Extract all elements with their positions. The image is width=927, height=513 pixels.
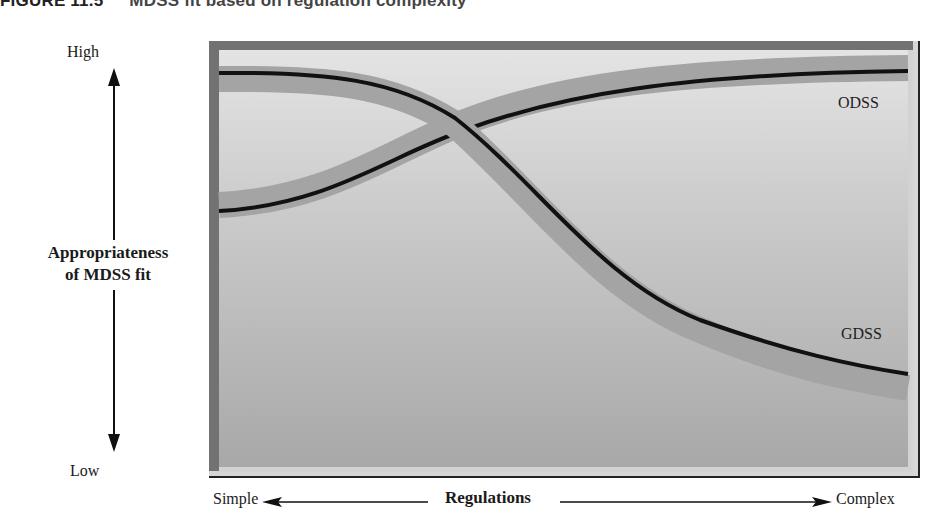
arrow-up-icon xyxy=(108,68,120,86)
series-label-odss: ODSS xyxy=(838,94,879,112)
arrow-down-icon xyxy=(108,434,120,452)
y-axis-low-label: Low xyxy=(70,462,99,480)
x-axis-right-label: Complex xyxy=(836,490,895,508)
y-axis-high-label: High xyxy=(67,43,99,61)
y-axis-title-line2: of MDSS fit xyxy=(20,264,196,286)
y-axis-title-line1: Appropriateness xyxy=(20,242,196,264)
y-axis-title: Appropriateness of MDSS fit xyxy=(20,242,196,286)
x-axis-arrow xyxy=(262,497,832,507)
x-axis-left-label: Simple xyxy=(213,490,258,508)
series-label-gdss: GDSS xyxy=(841,325,882,343)
x-axis-title: Regulations xyxy=(437,488,539,508)
